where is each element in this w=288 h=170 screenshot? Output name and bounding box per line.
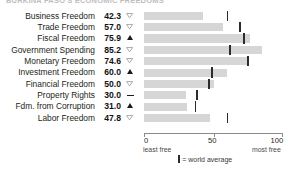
freedom-score: 31.0 [97,101,121,112]
bar-plot-area [144,11,283,124]
freedom-label: Business Freedom [25,11,95,22]
freedom-label: Fdm. from Corruption [15,101,95,112]
trend-flat-icon [125,90,135,101]
world-average-tick [196,90,198,100]
trend-down-icon [125,113,135,124]
world-average-marker-icon [178,155,180,163]
score-bar [144,12,203,20]
score-bar [144,91,186,99]
freedom-score: 42.3 [97,11,121,22]
chart-title: BURKINA FASO'S ECONOMIC FREEDOMS [6,0,164,5]
bar-row [144,11,283,22]
freedom-score: 85.2 [97,45,121,56]
world-average-tick [195,101,197,111]
score-bar [144,34,250,42]
world-average-tick [227,113,229,123]
freedom-label: Financial Freedom [26,79,95,90]
world-average-tick [229,45,231,55]
axis-label-100: 100 [271,136,284,145]
score-bar [144,69,227,77]
bar-row [144,67,283,78]
trend-down-icon [125,79,135,90]
bar-row [144,56,283,67]
legend-label: = world average [182,156,232,163]
world-average-tick [211,67,213,77]
freedom-score: 30.0 [97,90,121,101]
freedom-label: Labor Freedom [38,113,95,124]
axis-caption-least-free: least free [143,146,171,153]
bar-row [144,79,283,90]
bar-row [144,22,283,33]
trend-up-icon [125,33,135,44]
trend-down-icon [125,11,135,22]
axis-caption-most-free: most free [252,146,281,153]
score-bar [144,103,187,111]
world-average-tick [227,11,229,21]
score-bar [144,46,262,54]
score-bar [144,23,223,31]
score-bar [144,57,248,65]
trend-down-icon [125,22,135,33]
world-average-tick [208,79,210,89]
world-average-tick [247,56,249,66]
trend-up-icon [125,101,135,112]
world-average-tick [239,22,241,32]
trend-up-icon [125,67,135,78]
bar-row [144,45,283,56]
score-bar [144,80,214,88]
world-average-tick [243,33,245,43]
freedom-label: Investment Freedom [18,67,95,78]
bar-row [144,101,283,112]
freedom-label: Fiscal Freedom [37,33,95,44]
freedom-score: 75.9 [97,33,121,44]
legend-world-average: = world average [178,155,232,163]
freedom-score: 60.0 [97,67,121,78]
axis-label-50: 50 [208,136,216,145]
trend-down-icon [125,45,135,56]
freedom-score: 74.6 [97,56,121,67]
freedom-label: Monetary Freedom [24,56,95,67]
bar-row [144,113,283,124]
trend-down-icon [125,56,135,67]
freedom-label: Government Spending [11,45,95,56]
bar-row [144,90,283,101]
freedom-score: 57.0 [97,22,121,33]
bar-row [144,33,283,44]
freedom-score: 47.8 [97,113,121,124]
score-bar [144,114,210,122]
axis-label-0: 0 [144,136,148,145]
freedom-label: Property Rights [37,90,95,101]
freedom-label: Trade Freedom [38,22,95,33]
freedom-score: 50.0 [97,79,121,90]
